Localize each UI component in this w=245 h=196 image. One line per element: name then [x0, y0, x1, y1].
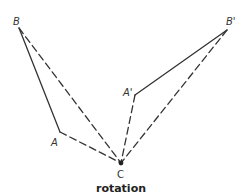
segment-BC — [19, 28, 121, 163]
rotation-center-point — [119, 161, 124, 166]
diagram-caption: rotation — [96, 182, 146, 195]
label-C: C — [117, 169, 124, 180]
label-B-prime: B' — [226, 16, 236, 27]
segment-ApC — [121, 95, 135, 163]
segment-AC — [60, 132, 121, 163]
label-A: A — [50, 137, 58, 148]
segment-BpC — [121, 30, 227, 163]
segment-ApBp — [135, 30, 227, 95]
rotation-diagram: B A C A' B' rotation — [0, 0, 245, 196]
segment-BA — [19, 28, 60, 132]
label-A-prime: A' — [122, 87, 133, 98]
label-B: B — [13, 16, 20, 27]
